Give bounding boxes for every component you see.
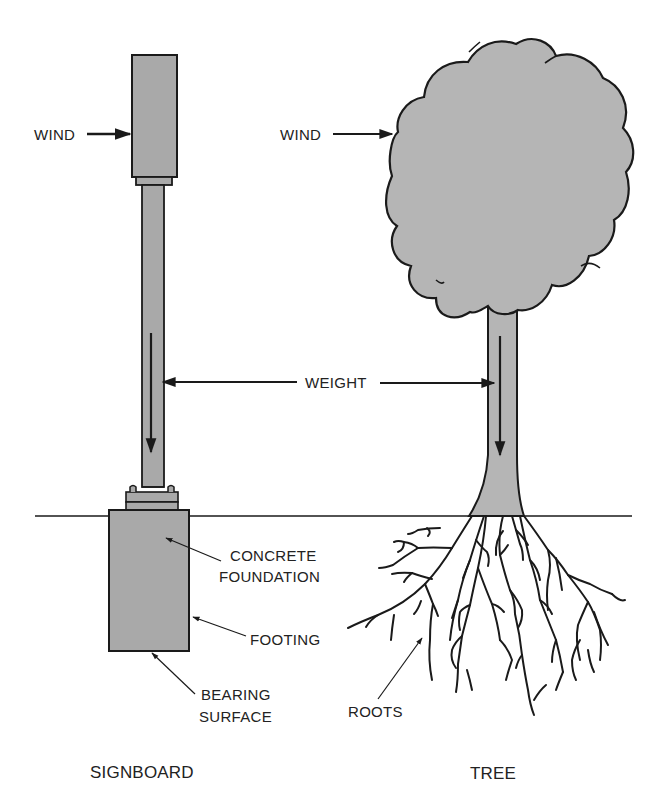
roots-pointer: [378, 638, 422, 699]
bearing-surface-pointer: [152, 653, 195, 694]
bearing-label-line2: SURFACE: [199, 708, 272, 725]
concrete-label-line1: CONCRETE: [230, 547, 317, 564]
bearing-label-line1: BEARING: [201, 686, 271, 703]
base-plate-lower: [126, 502, 178, 510]
signboard-caption: SIGNBOARD: [90, 763, 194, 783]
concrete-foundation: [109, 510, 189, 651]
tree-crown: [386, 39, 633, 317]
tree-wind-label: WIND: [280, 126, 321, 143]
sign-collar: [136, 177, 172, 185]
tree-caption: TREE: [470, 764, 516, 784]
tree-structure: [386, 39, 633, 516]
sign-panel: [132, 55, 177, 177]
footing-pointer: [193, 617, 246, 636]
diagram-svg: [0, 0, 668, 793]
tree-roots: [348, 516, 625, 715]
diagram-canvas: WIND WIND WEIGHT CONCRETE FOUNDATION FOO…: [0, 0, 668, 793]
footing-label: FOOTING: [250, 631, 320, 648]
tree-trunk: [469, 306, 524, 516]
weight-label: WEIGHT: [305, 374, 367, 391]
signboard-structure: [109, 55, 189, 651]
concrete-label-line2: FOUNDATION: [219, 568, 320, 585]
anchor-bolt-left: [130, 486, 136, 493]
signboard-wind-label: WIND: [34, 126, 75, 143]
sign-pole: [142, 185, 164, 487]
anchor-bolt-right: [168, 486, 174, 493]
base-plate-upper: [126, 492, 178, 502]
roots-label: ROOTS: [348, 703, 403, 720]
